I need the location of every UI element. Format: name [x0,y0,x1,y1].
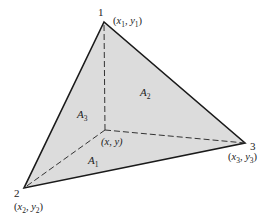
triangle-fill [24,22,245,188]
vertex-1-coord: (x1, y1) [113,15,143,29]
vertex-2-label: 2 [14,187,20,199]
interior-point-label: (x, y) [101,136,123,148]
vertex-3-coord: (x3, y3) [228,151,258,165]
vertex-2-coord: (x2, y2) [14,201,44,215]
vertex-1-label: 1 [98,6,104,18]
triangle-diagram: 1 2 3 (x1, y1) (x2, y2) (x3, y3) (x, y) … [0,0,271,222]
